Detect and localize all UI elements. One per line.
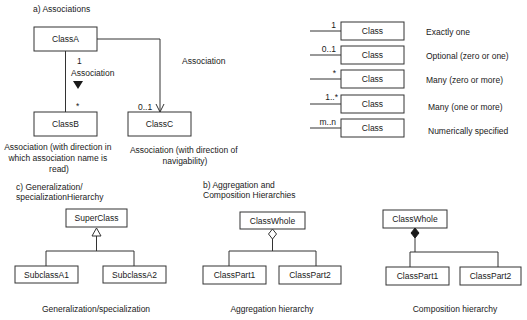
multiplicity-row: 1..* Class Many (one or more) bbox=[310, 92, 503, 113]
class-b-box: ClassB bbox=[34, 112, 97, 136]
composition-part1-label: ClassPart1 bbox=[397, 271, 439, 281]
associations-section: a) Associations ClassA ClassB ClassC 1 A… bbox=[4, 4, 240, 174]
associations-title: a) Associations bbox=[33, 4, 90, 14]
aggregation-part2-label: ClassPart2 bbox=[289, 270, 331, 280]
superclass-label: SuperClass bbox=[75, 213, 119, 223]
aggregation-whole-label: ClassWhole bbox=[250, 216, 296, 226]
subclass-a1-box: SubclassA1 bbox=[15, 266, 78, 283]
multiplicity-value: 1 bbox=[331, 20, 336, 30]
multiplicity-row: 0..1 Class Optional (zero or one) bbox=[310, 44, 509, 64]
aggregation-part1-box: ClassPart1 bbox=[203, 266, 266, 284]
subclass-a1-label: SubclassA1 bbox=[24, 270, 69, 280]
class-a-label: ClassA bbox=[52, 34, 79, 44]
aggregation-diamond-icon bbox=[269, 229, 277, 239]
multiplicity-class-label: Class bbox=[362, 26, 383, 36]
multiplicity-meaning: Many (zero or more) bbox=[426, 75, 503, 85]
composition-part1-box: ClassPart1 bbox=[386, 267, 449, 285]
generalization-section: c) Generalization/ specializationHierarc… bbox=[15, 182, 166, 314]
class-b-label: ClassB bbox=[52, 119, 79, 129]
multiplicity-class-label: Class bbox=[362, 74, 383, 84]
aggregation-part2-box: ClassPart2 bbox=[279, 266, 341, 284]
ac-association-label: Association bbox=[182, 56, 226, 66]
subclass-a2-box: SubclassA2 bbox=[103, 266, 166, 283]
reading-direction-triangle-icon bbox=[73, 81, 83, 89]
composition-whole-box: ClassWhole bbox=[383, 210, 447, 228]
multiplicity-meaning: Exactly one bbox=[426, 27, 470, 37]
aggregation-whole-box: ClassWhole bbox=[240, 212, 305, 229]
generalization-triangle-icon bbox=[92, 228, 101, 236]
aggregation-caption: Aggregation hierarchy bbox=[230, 304, 314, 314]
ac-multiplicity: 0..1 bbox=[138, 102, 152, 112]
association-caption-left: Association (with direction in which ass… bbox=[4, 142, 114, 174]
multiplicity-value: * bbox=[333, 68, 337, 78]
composition-diamond-icon bbox=[411, 228, 419, 238]
generalization-branch bbox=[46, 251, 134, 266]
composition-part2-box: ClassPart2 bbox=[460, 267, 521, 285]
ab-multiplicity-bottom: * bbox=[76, 101, 80, 111]
superclass-box: SuperClass bbox=[66, 209, 127, 227]
composition-part2-label: ClassPart2 bbox=[470, 271, 512, 281]
generalization-title: c) Generalization/ specializationHierarc… bbox=[16, 182, 104, 202]
multiplicity-meaning: Optional (zero or one) bbox=[426, 51, 509, 61]
generalization-caption: Generalization/specialization bbox=[42, 304, 150, 314]
ab-multiplicity-top: 1 bbox=[77, 56, 82, 66]
aggregation-section: b) Aggregation and Composition Hierarchi… bbox=[203, 180, 341, 314]
multiplicity-class-label: Class bbox=[362, 123, 383, 133]
class-c-label: ClassC bbox=[146, 119, 173, 129]
composition-branch bbox=[410, 252, 498, 267]
ab-association-label: Association bbox=[71, 68, 115, 78]
composition-section: ClassWhole ClassPart1 ClassPart2 Composi… bbox=[383, 210, 521, 314]
multiplicity-class-label: Class bbox=[362, 50, 383, 60]
uml-notation-diagram: a) Associations ClassA ClassB ClassC 1 A… bbox=[0, 0, 527, 320]
multiplicity-class-label: Class bbox=[362, 99, 383, 109]
multiplicity-row: * Class Many (zero or more) bbox=[310, 68, 503, 88]
aggregation-title: b) Aggregation and Composition Hierarchi… bbox=[203, 180, 296, 200]
multiplicity-meaning: Numerically specified bbox=[428, 126, 509, 136]
multiplicity-meaning: Many (one or more) bbox=[428, 102, 503, 112]
aggregation-part1-label: ClassPart1 bbox=[214, 270, 256, 280]
subclass-a2-label: SubclassA2 bbox=[112, 270, 157, 280]
class-c-box: ClassC bbox=[128, 112, 191, 136]
association-caption-right: Association (with direction of navigabil… bbox=[130, 145, 240, 166]
aggregation-branch bbox=[229, 251, 316, 266]
multiplicity-row: 1 Class Exactly one bbox=[310, 20, 470, 40]
multiplicity-legend: 1 Class Exactly one 0..1 Class Optional … bbox=[310, 20, 509, 137]
multiplicity-value: m..n bbox=[319, 117, 336, 127]
multiplicity-value: 1..* bbox=[325, 92, 338, 102]
composition-whole-label: ClassWhole bbox=[392, 214, 438, 224]
class-a-box: ClassA bbox=[34, 27, 97, 51]
composition-caption: Composition hierarchy bbox=[413, 304, 498, 314]
multiplicity-row: m..n Class Numerically specified bbox=[310, 117, 509, 137]
multiplicity-value: 0..1 bbox=[322, 44, 336, 54]
